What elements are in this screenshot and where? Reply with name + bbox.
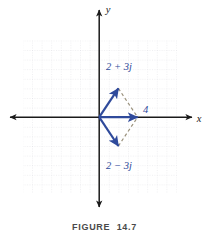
figure-14-7: 2 + 3j 2 − 3j 4 y x FIGURE 14.7 [0, 0, 209, 237]
label-2-plus-3j: 2 + 3j [106, 61, 132, 72]
label-resultant-4: 4 [143, 104, 149, 115]
figure-caption: FIGURE 14.7 [72, 222, 137, 232]
coordinate-plot-svg: 2 + 3j 2 − 3j 4 y x [0, 0, 209, 212]
y-axis-label: y [105, 4, 111, 15]
plot-area: 2 + 3j 2 − 3j 4 y x [0, 0, 209, 212]
x-axis-label: x [196, 113, 202, 124]
label-2-minus-3j: 2 − 3j [106, 160, 132, 171]
figure-caption-wrap: FIGURE 14.7 [0, 216, 209, 234]
